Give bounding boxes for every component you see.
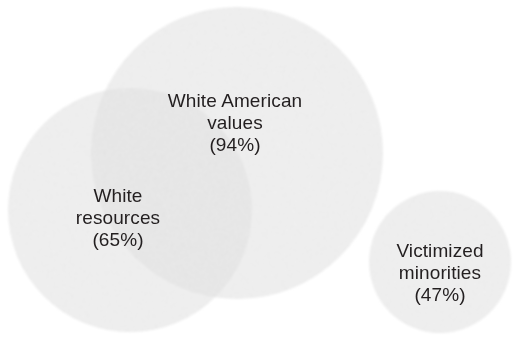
label-line-3-percentage: (65%)	[43, 229, 193, 251]
label-line-1: White	[43, 185, 193, 207]
label-line-2: values	[135, 112, 335, 134]
label-victimized-minorities: Victimized minorities (47%)	[366, 240, 514, 306]
label-line-3-percentage: (94%)	[135, 134, 335, 156]
label-white-resources: White resources (65%)	[43, 185, 193, 251]
label-line-1: Victimized	[366, 240, 514, 262]
label-line-3-percentage: (47%)	[366, 284, 514, 306]
label-line-2: resources	[43, 207, 193, 229]
label-line-2: minorities	[366, 262, 514, 284]
label-white-american-values: White American values (94%)	[135, 90, 335, 156]
label-line-1: White American	[135, 90, 335, 112]
venn-diagram-figure: White American values (94%) White resour…	[0, 0, 519, 359]
